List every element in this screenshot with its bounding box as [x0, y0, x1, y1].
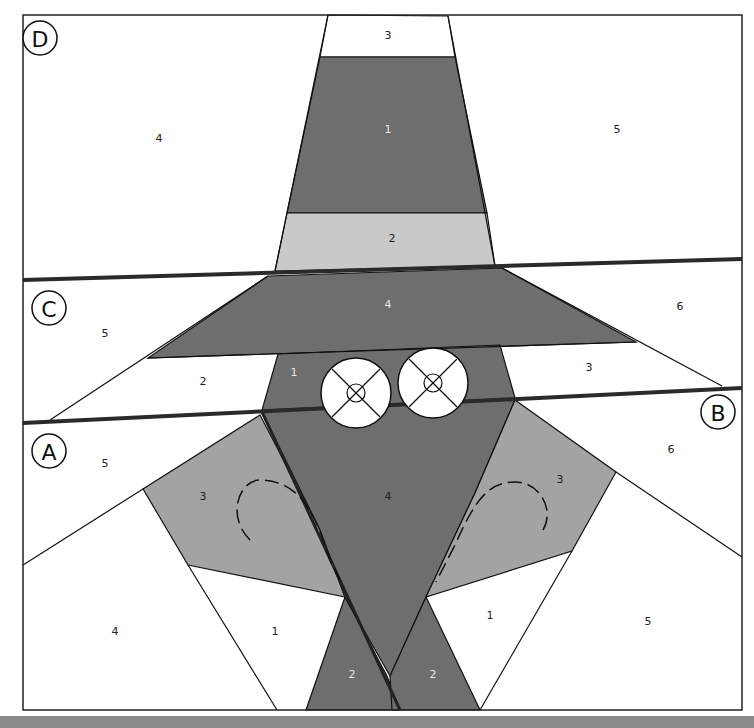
section-letter-d: D [23, 21, 57, 55]
section-b-label: B [710, 401, 725, 426]
left-eye [321, 358, 391, 428]
label-c5: 5 [102, 327, 109, 340]
label-a4: 4 [112, 625, 119, 638]
label-a1: 1 [272, 625, 279, 638]
label-b6: 6 [668, 443, 675, 456]
label-c3: 3 [586, 361, 593, 374]
label-d2: 2 [389, 232, 396, 245]
section-letter-a: A [32, 434, 66, 468]
label-c1: 1 [291, 366, 298, 379]
label-d3: 3 [385, 29, 392, 42]
section-c-label: C [41, 297, 56, 322]
label-a5: 5 [102, 457, 109, 470]
bottom-bar [0, 716, 754, 728]
label-c4: 4 [385, 298, 392, 311]
piece-d2 [275, 213, 495, 271]
label-c2: 2 [200, 375, 207, 388]
label-d1: 1 [385, 123, 392, 136]
label-a3: 3 [200, 490, 207, 503]
label-a2: 2 [349, 668, 356, 681]
section-letter-c: C [32, 291, 66, 325]
label-b5: 5 [645, 615, 652, 628]
label-b3: 3 [557, 473, 564, 486]
label-d5: 5 [614, 123, 621, 136]
section-d-label: D [32, 27, 49, 52]
label-c6: 6 [677, 300, 684, 313]
section-a-label: A [41, 440, 56, 465]
label-b2: 2 [430, 668, 437, 681]
section-letter-b: B [701, 395, 735, 429]
right-eye [398, 348, 468, 418]
pattern-diagram: 3 1 2 4 5 4 5 6 2 1 3 5 3 4 1 2 4 6 3 1 … [0, 0, 754, 728]
label-b4: 4 [385, 490, 392, 503]
label-b1: 1 [487, 609, 494, 622]
label-d4: 4 [156, 132, 163, 145]
